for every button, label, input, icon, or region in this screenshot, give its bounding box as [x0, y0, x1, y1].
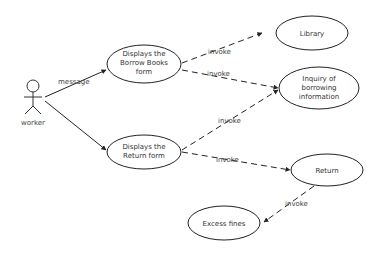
usecase-text: Inquiry of [302, 75, 336, 83]
edge-borrow-inquiry [182, 70, 278, 88]
usecase-text: Displays the [122, 143, 165, 151]
usecase-text: Displays the [122, 50, 165, 58]
edge-label-invoke-2: invoke [207, 70, 230, 78]
edge-label-message: message [58, 78, 89, 86]
actor-worker [24, 80, 42, 114]
edge-label-invoke-1: invoke [208, 48, 231, 56]
usecase-text: Library [300, 30, 324, 38]
usecase-text: Borrow Books [120, 59, 168, 67]
usecase-text: Return [315, 167, 338, 175]
actor-label: worker [21, 119, 45, 127]
edge-label-invoke-3: invoke [218, 117, 241, 125]
edge-worker-return-form [45, 101, 106, 150]
usecase-text: borrowing [301, 84, 336, 92]
actor-head-icon [27, 80, 39, 92]
use-case-diagram: worker message invoke invoke invoke invo… [0, 0, 383, 255]
usecase-text: Return form [123, 152, 165, 160]
edge-label-invoke-5: invoke [285, 200, 308, 208]
usecase-text: Excess fines [203, 220, 246, 228]
usecase-text: information [299, 93, 339, 101]
usecase-text: form [136, 68, 153, 76]
edge-label-invoke-4: invoke [216, 156, 239, 164]
